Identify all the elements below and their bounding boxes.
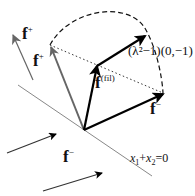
diagram-canvas: f+ f+ f(fil) (λ²−1)(0,−1) f− f− x1+x2=0 xyxy=(0,0,195,196)
f-minus-small-arrow-2 xyxy=(43,173,102,191)
f-minus-small-arrow-1 xyxy=(7,134,56,153)
f-plus-outer-sup: + xyxy=(28,24,33,34)
label-lambda-vector: (λ²−1)(0,−1) xyxy=(128,44,193,57)
f-fil-sup: (fil) xyxy=(101,73,115,83)
label-f-plus-inner: f+ xyxy=(33,52,44,69)
f-plus-inner-sup: + xyxy=(39,51,44,61)
label-f-minus-bottom: f− xyxy=(63,148,74,165)
f-plus-vector xyxy=(51,47,84,130)
label-line-equation: x1+x2=0 xyxy=(130,152,168,167)
label-f-fil: f(fil) xyxy=(95,74,115,91)
eq-rest: =0 xyxy=(155,151,168,165)
label-f-plus-outer: f+ xyxy=(22,25,33,42)
label-f-minus-right: f− xyxy=(150,100,161,117)
f-minus-right-sup: − xyxy=(156,99,161,109)
f-minus-bottom-sup: − xyxy=(69,147,74,157)
